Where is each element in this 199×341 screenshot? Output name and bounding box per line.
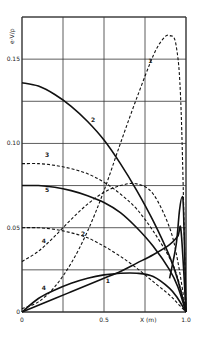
curve-label: 2	[91, 116, 95, 123]
x-tick-label: 0	[20, 316, 24, 323]
curve-label: 1	[106, 277, 110, 284]
y-tick-label: 0	[16, 308, 20, 315]
curve-label: 5	[45, 186, 49, 193]
y-tick-label: 0.05	[7, 224, 21, 231]
x-tick-label: 1.0	[181, 316, 191, 323]
grid	[22, 17, 186, 312]
curve-label: 2	[81, 230, 85, 237]
curve-label: 1	[148, 57, 152, 64]
curve-labels: 21354241	[42, 57, 153, 292]
y-tick-label: 0.10	[7, 139, 21, 146]
x-tick-label: 0.5	[99, 316, 109, 323]
y-tick-label: 0.15	[7, 55, 21, 62]
curve-label: 4	[42, 237, 46, 244]
x-axis-label: X (m)	[140, 316, 157, 323]
curve-label: 3	[45, 151, 49, 158]
curve-label: 4	[42, 284, 46, 291]
y-axis-label: e·V/ρ	[8, 28, 16, 44]
chart: 21354241 00.050.100.1500.51.0 e·V/ρ X (m…	[0, 0, 199, 341]
